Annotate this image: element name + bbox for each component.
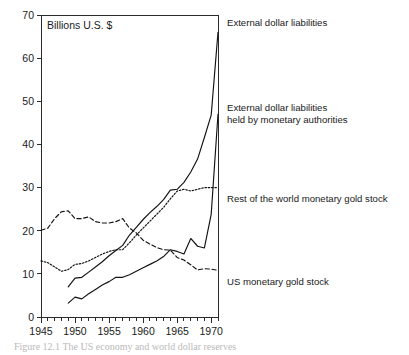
x-tick-label: 1965: [165, 325, 189, 337]
line-chart: 010203040506070194519501955196019651970 …: [0, 0, 409, 355]
y-tick-label: 70: [22, 9, 34, 21]
y-tick-label: 0: [28, 311, 34, 323]
plot-frame: [41, 15, 218, 317]
ann-us-gold: US monetary gold stock: [227, 276, 329, 287]
figure-caption: Figure 12.1 The US economy and world dol…: [14, 341, 404, 352]
ann-external-dollar-liabilities: External dollar liabilities: [227, 17, 327, 28]
unit-label: Billions U.S. $: [47, 19, 113, 31]
y-tick-label: 50: [22, 95, 34, 107]
series-line-1: [68, 32, 218, 287]
x-tick-label: 1945: [29, 325, 53, 337]
y-tick-label: 20: [22, 225, 34, 237]
y-tick-label: 40: [22, 138, 34, 150]
figure-container: 010203040506070194519501955196019651970 …: [0, 0, 409, 355]
ann-rest-of-world-gold: Rest of the world monetary gold stock: [227, 193, 388, 204]
series-line-2: [68, 114, 218, 303]
series-line-3: [41, 188, 218, 272]
chart-annotations: External dollar liabilitiesExternal doll…: [227, 17, 388, 287]
ann-external-held-line2: held by monetary authorities: [227, 114, 348, 125]
y-tick-label: 10: [22, 268, 34, 280]
chart-axes: 010203040506070194519501955196019651970: [22, 9, 223, 337]
x-tick-label: 1955: [97, 325, 121, 337]
y-tick-label: 30: [22, 181, 34, 193]
x-tick-label: 1960: [131, 325, 155, 337]
ann-external-held-line1: External dollar liabilities: [227, 102, 327, 113]
x-tick-label: 1970: [200, 325, 224, 337]
y-tick-label: 60: [22, 52, 34, 64]
series-line-4: [41, 211, 218, 271]
chart-series: [41, 32, 218, 303]
x-tick-label: 1950: [63, 325, 87, 337]
